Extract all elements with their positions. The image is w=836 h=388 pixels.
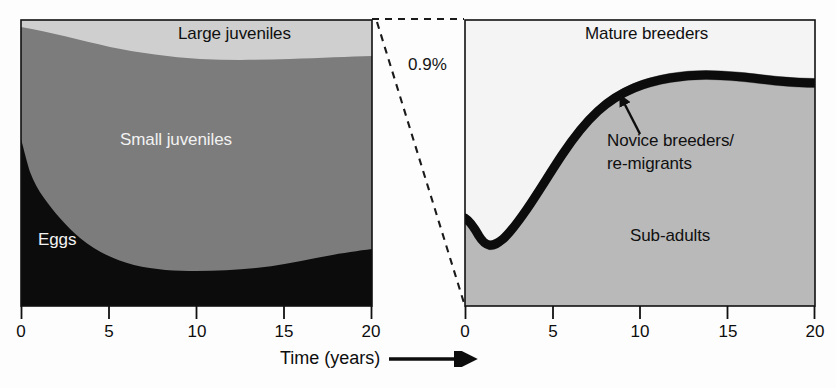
- right-tick-15: 15: [719, 322, 738, 342]
- label-sub-adults: Sub-adults: [630, 226, 710, 246]
- population-stage-structure-figure: Large juveniles Small juveniles Eggs 0 5…: [0, 0, 836, 388]
- left-panel-group: [21, 20, 372, 319]
- axis-caption: Time (years): [280, 348, 485, 369]
- right-tick-0: 0: [460, 322, 469, 342]
- label-large-juveniles: Large juveniles: [178, 24, 291, 44]
- label-mature-breeders: Mature breeders: [585, 24, 708, 44]
- label-novice-breeders-line1: Novice breeders/: [607, 131, 734, 151]
- left-tick-20: 20: [362, 322, 381, 342]
- axis-caption-text: Time (years): [280, 348, 380, 369]
- label-eggs: Eggs: [38, 230, 76, 250]
- right-tick-5: 5: [548, 322, 557, 342]
- left-panel-ticks: [22, 306, 372, 319]
- label-novice-breeders-line2: re-migrants: [607, 154, 692, 174]
- right-tick-10: 10: [631, 322, 650, 342]
- magnification-percent: 0.9%: [408, 55, 447, 75]
- right-panel-ticks: [466, 306, 815, 319]
- left-tick-5: 5: [104, 322, 113, 342]
- right-tick-20: 20: [806, 322, 825, 342]
- left-tick-10: 10: [188, 322, 207, 342]
- left-tick-15: 15: [275, 322, 294, 342]
- label-small-juveniles: Small juveniles: [120, 130, 232, 150]
- right-arrow-icon: [389, 351, 485, 367]
- left-tick-0: 0: [16, 322, 25, 342]
